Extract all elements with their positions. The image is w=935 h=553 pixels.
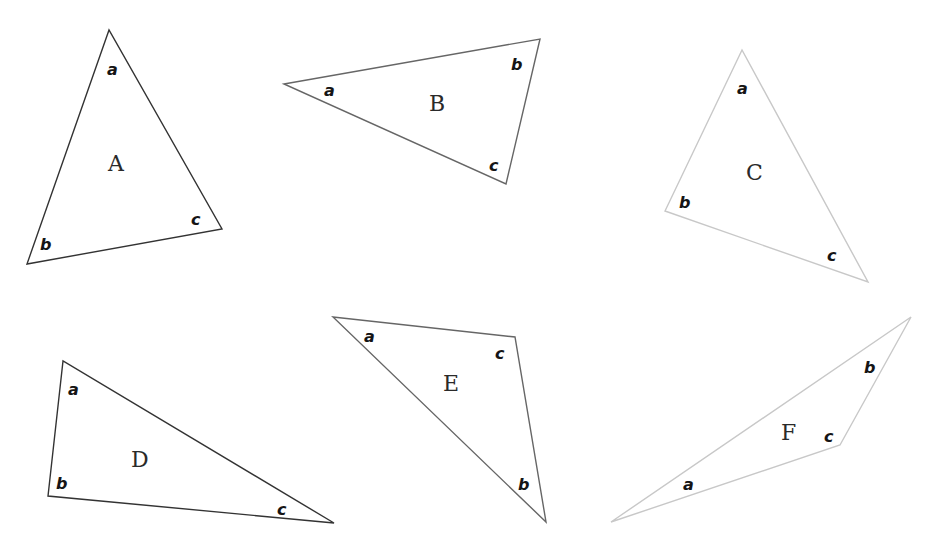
triangle-c-angle-a: a [737,79,748,98]
triangle-a-name: A [107,151,125,176]
triangle-f-angle-b: b [864,358,875,377]
triangle-d-angle-a: a [68,380,79,399]
triangle-e-angle-b: b [518,475,529,494]
triangle-a-angle-a: a [107,60,118,79]
triangle-a-angle-b: b [40,235,51,254]
triangle-e-name: E [443,371,459,396]
triangle-c-angle-b: b [679,193,690,212]
triangle-f-angle-a: a [683,475,694,494]
triangle-b: B a b c [284,39,540,184]
triangle-b-angle-c: c [489,156,499,175]
triangle-e: E a c b [333,317,546,522]
triangle-c: C a b c [665,50,868,282]
triangle-e-angle-c: c [495,344,505,363]
triangle-f-angle-c: c [824,427,834,446]
triangle-f: F b c a [611,317,911,522]
triangle-e-outline [333,317,546,522]
triangle-b-angle-a: a [324,81,335,100]
triangles-diagram: A a b c B a b c C a b c D a b c E a c b … [0,0,935,553]
triangle-e-angle-a: a [364,327,375,346]
triangle-f-name: F [781,420,796,445]
triangle-c-angle-c: c [827,246,837,265]
triangle-d-angle-c: c [277,500,287,519]
triangle-b-outline [284,39,540,184]
triangle-b-name: B [429,91,445,116]
triangle-a-angle-c: c [191,210,201,229]
triangle-a: A a b c [27,30,222,264]
triangle-c-name: C [746,160,763,185]
triangle-d-outline [48,361,334,523]
triangle-c-outline [665,50,868,282]
triangle-d: D a b c [48,361,334,523]
triangle-d-name: D [131,447,149,472]
triangle-b-angle-b: b [511,55,522,74]
triangle-d-angle-b: b [56,474,67,493]
triangle-f-outline [611,317,911,522]
